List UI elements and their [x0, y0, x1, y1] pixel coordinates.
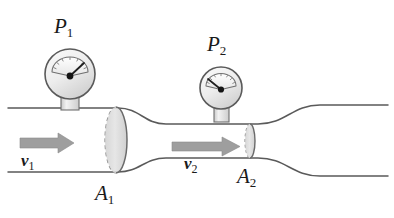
label-p2-sub: 2 — [220, 43, 227, 58]
label-v2-sub: 2 — [192, 162, 198, 176]
label-a2-sub: 2 — [250, 175, 257, 190]
velocity-arrow-1 — [20, 133, 74, 153]
label-v1-base: v — [21, 151, 29, 170]
cross-section-a1 — [105, 107, 127, 173]
label-a1-sub: 1 — [108, 192, 115, 207]
label-p1-sub: 1 — [67, 25, 74, 40]
figure-canvas: P1 P2 v1 v2 A1 A2 — [0, 0, 394, 218]
label-p1-base: P — [54, 14, 67, 38]
pressure-gauge-2[interactable] — [200, 67, 242, 122]
label-a2: A2 — [237, 166, 256, 189]
pressure-gauge-1[interactable] — [45, 49, 95, 110]
gauge-2-hub — [218, 86, 224, 92]
label-v2-base: v — [184, 154, 192, 173]
label-a1-base: A — [95, 181, 108, 205]
label-v1: v1 — [21, 152, 35, 172]
label-p2-base: P — [207, 32, 220, 56]
cross-section-a2 — [245, 124, 255, 158]
velocity-arrow-2 — [172, 137, 240, 156]
label-v2: v2 — [184, 155, 198, 175]
label-a2-base: A — [237, 164, 250, 188]
gauge-1-hub — [67, 73, 74, 80]
label-p2: P2 — [207, 34, 226, 57]
pipe-bottom-wall — [8, 158, 388, 176]
label-p1: P1 — [54, 16, 73, 39]
label-a1: A1 — [95, 183, 114, 206]
label-v1-sub: 1 — [29, 159, 35, 173]
